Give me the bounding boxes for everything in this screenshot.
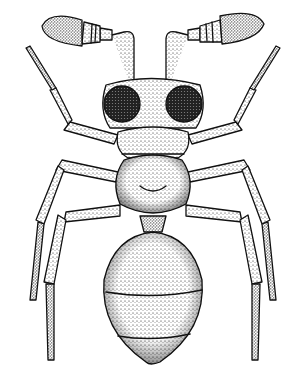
left-compound-eye [104,86,140,122]
insect-drawing [0,0,306,378]
insect-illustration [0,0,306,378]
right-compound-eye [166,86,202,122]
head [103,79,203,129]
petiole [140,216,166,232]
